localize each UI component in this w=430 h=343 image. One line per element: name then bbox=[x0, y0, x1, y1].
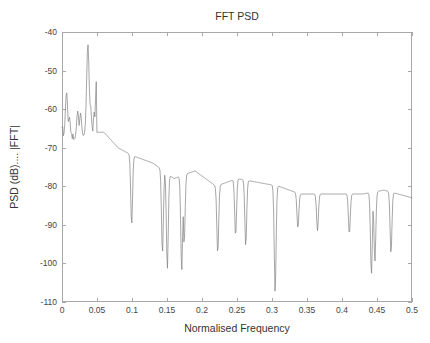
x-tick-label: 0.3 bbox=[266, 305, 278, 315]
fft-psd-chart: 00.050.10.150.20.250.30.350.40.450.5 -40… bbox=[0, 0, 430, 343]
y-tick-label: -40 bbox=[45, 27, 58, 37]
chart-background bbox=[0, 0, 430, 343]
figure-canvas: 00.050.10.150.20.250.30.350.40.450.5 -40… bbox=[0, 0, 430, 343]
chart-title: FFT PSD bbox=[215, 10, 259, 22]
y-tick-label: -70 bbox=[45, 143, 58, 153]
x-tick-label: 0.25 bbox=[229, 305, 246, 315]
x-tick-label: 0.2 bbox=[196, 305, 208, 315]
x-axis-title: Normalised Frequency bbox=[184, 322, 290, 334]
x-tick-label: 0.05 bbox=[89, 305, 106, 315]
x-tick-label: 0.5 bbox=[406, 305, 418, 315]
y-tick-label: -90 bbox=[45, 220, 58, 230]
x-tick-label: 0.45 bbox=[369, 305, 386, 315]
y-tick-label: -60 bbox=[45, 104, 58, 114]
x-tick-label: 0.35 bbox=[299, 305, 316, 315]
x-tick-label: 0 bbox=[60, 305, 65, 315]
y-tick-label: -110 bbox=[41, 297, 58, 307]
x-tick-label: 0.1 bbox=[126, 305, 138, 315]
y-tick-label: -80 bbox=[45, 181, 58, 191]
y-tick-label: -50 bbox=[45, 66, 58, 76]
y-tick-label: -100 bbox=[40, 258, 57, 268]
x-tick-label: 0.15 bbox=[159, 305, 176, 315]
x-tick-label: 0.4 bbox=[336, 305, 348, 315]
y-axis-title: PSD (dB).... |FFT| bbox=[8, 125, 20, 209]
